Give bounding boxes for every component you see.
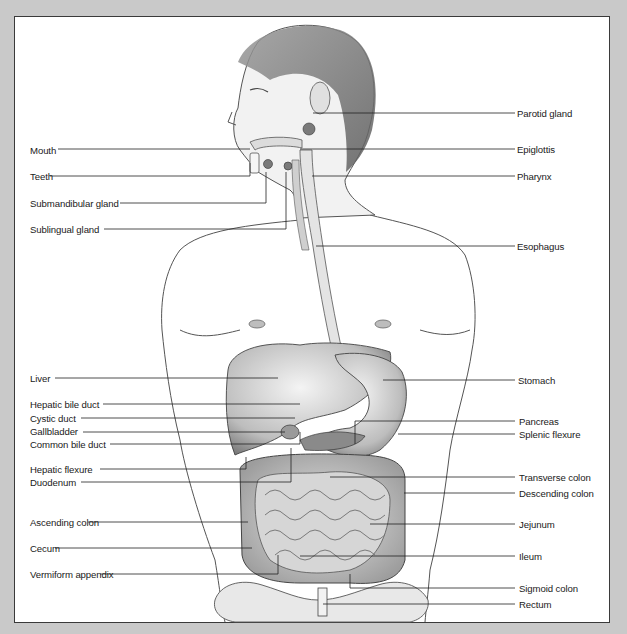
label-vermiform-appendix: Vermiform appendix [30,569,114,580]
label-descending-colon: Descending colon [519,488,594,499]
head [228,25,376,218]
submandibular-gland [264,160,273,169]
label-jejunum: Jejunum [519,519,555,530]
label-ileum: Ileum [519,551,542,562]
label-rectum: Rectum [519,599,551,610]
label-transverse-colon: Transverse colon [519,472,591,483]
label-ascending-colon: Ascending colon [30,517,99,528]
label-teeth: Teeth [30,171,53,182]
nipple-right [375,320,391,328]
rectum [318,588,327,616]
small-intestine [255,472,390,573]
label-duodenum: Duodenum [30,477,76,488]
label-sigmoid-colon: Sigmoid colon [519,583,578,594]
label-sublingual-gland: Sublingual gland [30,224,99,235]
label-splenic-flexure: Splenic flexure [519,429,580,440]
label-common-bile-duct: Common bile duct [30,439,106,450]
label-epiglottis: Epiglottis [517,144,555,155]
label-liver: Liver [30,373,50,384]
label-cecum: Cecum [30,543,60,554]
nipple-left [249,320,265,328]
sublingual-gland [284,162,292,170]
label-pancreas: Pancreas [519,416,559,427]
label-hepatic-flexure: Hepatic flexure [30,464,93,475]
label-gallbladder: Gallbladder [30,426,78,437]
label-parotid-gland: Parotid gland [517,108,572,119]
label-submandibular-gland: Submandibular gland [30,198,119,209]
label-esophagus: Esophagus [517,241,564,252]
teeth [250,153,259,173]
parotid-gland [303,123,315,135]
label-stomach: Stomach [518,375,555,386]
anatomy-illustration [0,0,627,634]
label-cystic-duct: Cystic duct [30,413,76,424]
label-hepatic-bile-duct: Hepatic bile duct [30,399,99,410]
label-pharynx: Pharynx [517,171,552,182]
label-mouth: Mouth [30,145,56,156]
